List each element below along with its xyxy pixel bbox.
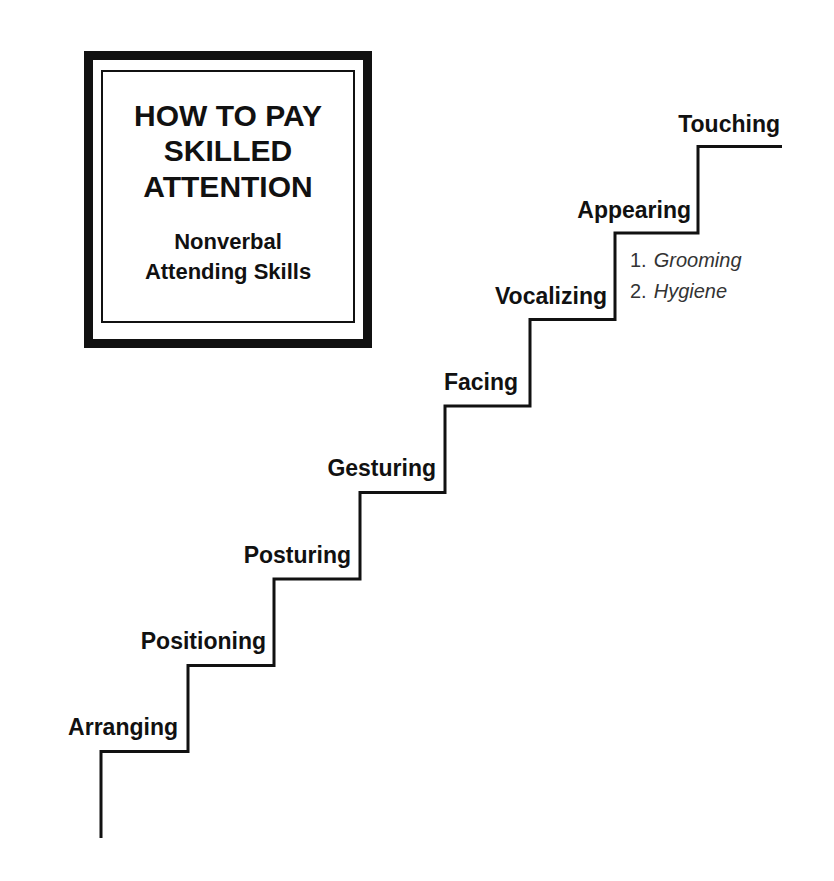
- step-label-vocalizing: Vocalizing: [495, 285, 607, 308]
- subitem-number: 2.: [630, 280, 647, 302]
- appearing-subitem-grooming: 1.Grooming: [630, 250, 742, 270]
- step-label-gesturing: Gesturing: [327, 457, 436, 480]
- step-label-touching: Touching: [678, 113, 780, 136]
- step-label-positioning: Positioning: [141, 630, 266, 653]
- appearing-subitem-hygiene: 2.Hygiene: [630, 281, 727, 301]
- subitem-text: Hygiene: [654, 280, 727, 302]
- step-label-posturing: Posturing: [244, 544, 351, 567]
- subitem-number: 1.: [630, 249, 647, 271]
- step-label-arranging: Arranging: [68, 716, 178, 739]
- subitem-text: Grooming: [654, 249, 742, 271]
- step-label-facing: Facing: [444, 371, 518, 394]
- step-label-appearing: Appearing: [577, 199, 691, 222]
